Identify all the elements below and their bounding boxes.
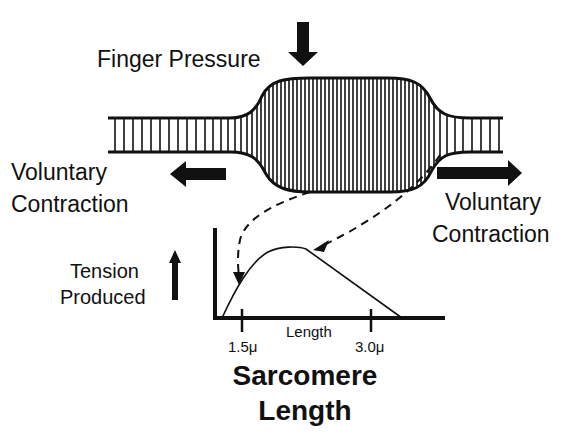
x-tick-label-1: 1.5μ xyxy=(228,338,258,356)
sarcomere-title-line2: Length xyxy=(200,394,410,428)
right-arrow-icon xyxy=(437,160,522,186)
tension-label-line1: Tension xyxy=(70,259,139,283)
right-contraction-label: Contraction xyxy=(432,219,550,249)
left-voluntary-label: Voluntary xyxy=(11,157,107,187)
x-axis-length-label: Length xyxy=(286,323,332,341)
x-tick-label-2: 3.0μ xyxy=(355,338,385,356)
finger-pressure-label: Finger Pressure xyxy=(97,44,261,74)
pressure-arrow-icon xyxy=(288,22,318,66)
fiber-striations xyxy=(115,70,499,200)
left-arrow-icon xyxy=(170,161,226,187)
dashed-arrowhead-right xyxy=(313,240,329,252)
left-contraction-label: Contraction xyxy=(11,189,129,219)
tension-label-line2: Produced xyxy=(60,285,146,309)
tension-up-arrow-icon xyxy=(169,250,181,300)
dashed-arrow-compressed xyxy=(238,192,310,276)
sarcomere-title-line1: Sarcomere xyxy=(200,359,410,393)
length-tension-curve xyxy=(222,247,402,318)
right-voluntary-label: Voluntary xyxy=(445,187,541,217)
